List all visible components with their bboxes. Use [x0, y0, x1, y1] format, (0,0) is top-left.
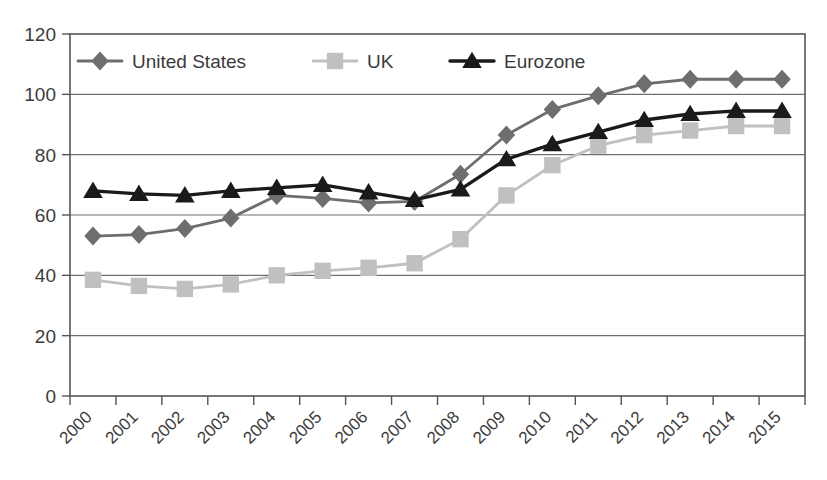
- x-tick-label-2000: 2000: [56, 407, 96, 447]
- square-marker: [498, 187, 514, 203]
- square-marker: [544, 157, 560, 173]
- diamond-marker: [84, 227, 101, 246]
- series-line: [93, 126, 782, 289]
- x-tick-label-2013: 2013: [653, 407, 693, 447]
- diamond-marker: [590, 86, 607, 105]
- y-tick-label: 120: [24, 24, 56, 45]
- square-marker: [360, 260, 376, 276]
- diamond-marker: [91, 52, 108, 71]
- legend-label: Eurozone: [504, 51, 585, 72]
- square-marker: [177, 281, 193, 297]
- chart-canvas: 020406080100120 200020012002200320042005…: [0, 0, 827, 480]
- x-axis-tick-marks: [70, 396, 805, 405]
- diamond-marker: [727, 70, 744, 89]
- x-tick-label-2012: 2012: [607, 407, 647, 447]
- diamond-marker: [222, 209, 239, 228]
- chart-legend: United StatesUKEurozone: [78, 51, 585, 72]
- y-tick-label: 40: [35, 265, 56, 286]
- diamond-marker: [544, 100, 561, 119]
- square-marker: [682, 122, 698, 138]
- line-chart: 020406080100120 200020012002200320042005…: [0, 0, 827, 480]
- x-tick-label-2010: 2010: [515, 407, 555, 447]
- x-tick-label-2009: 2009: [469, 407, 509, 447]
- x-tick-label-2001: 2001: [102, 407, 142, 447]
- series-united-states: [84, 70, 791, 246]
- y-tick-label: 60: [35, 205, 56, 226]
- square-marker: [85, 272, 101, 288]
- x-tick-label-2008: 2008: [423, 407, 463, 447]
- x-tick-label-2003: 2003: [193, 407, 233, 447]
- series-line: [93, 79, 782, 236]
- triangle-marker: [451, 180, 471, 196]
- y-axis-tick-marks: [62, 34, 70, 396]
- square-marker: [452, 231, 468, 247]
- y-tick-label: 100: [24, 84, 56, 105]
- legend-label: UK: [367, 51, 394, 72]
- square-marker: [406, 255, 422, 271]
- x-tick-label-2014: 2014: [699, 407, 739, 447]
- x-tick-label-2015: 2015: [745, 407, 785, 447]
- y-tick-label: 0: [45, 386, 56, 407]
- y-tick-label: 80: [35, 145, 56, 166]
- x-tick-label-2002: 2002: [147, 407, 187, 447]
- y-axis-tick-labels: 020406080100120: [24, 24, 56, 407]
- square-marker: [327, 53, 343, 69]
- square-marker: [314, 263, 330, 279]
- square-marker: [269, 267, 285, 283]
- square-marker: [131, 278, 147, 294]
- diamond-marker: [635, 74, 652, 93]
- legend-label: United States: [132, 51, 246, 72]
- diamond-marker: [773, 70, 790, 89]
- data-series: [83, 70, 792, 297]
- diamond-marker: [681, 70, 698, 89]
- series-uk: [85, 118, 790, 297]
- x-axis-tick-labels: 2000200120022003200420052006200720082009…: [56, 407, 785, 447]
- legend-item-uk[interactable]: UK: [313, 51, 394, 72]
- square-marker: [590, 137, 606, 153]
- x-tick-label-2007: 2007: [377, 407, 417, 447]
- legend-item-united-states[interactable]: United States: [78, 51, 246, 72]
- diamond-marker: [130, 225, 147, 244]
- x-tick-label-2005: 2005: [285, 407, 325, 447]
- square-marker: [728, 118, 744, 134]
- diamond-marker: [176, 219, 193, 238]
- square-marker: [223, 276, 239, 292]
- x-tick-label-2004: 2004: [239, 407, 279, 447]
- y-tick-label: 20: [35, 326, 56, 347]
- x-tick-label-2006: 2006: [331, 407, 371, 447]
- square-marker: [636, 127, 652, 143]
- x-tick-label-2011: 2011: [562, 407, 601, 446]
- square-marker: [774, 118, 790, 134]
- legend-item-eurozone[interactable]: Eurozone: [450, 51, 585, 72]
